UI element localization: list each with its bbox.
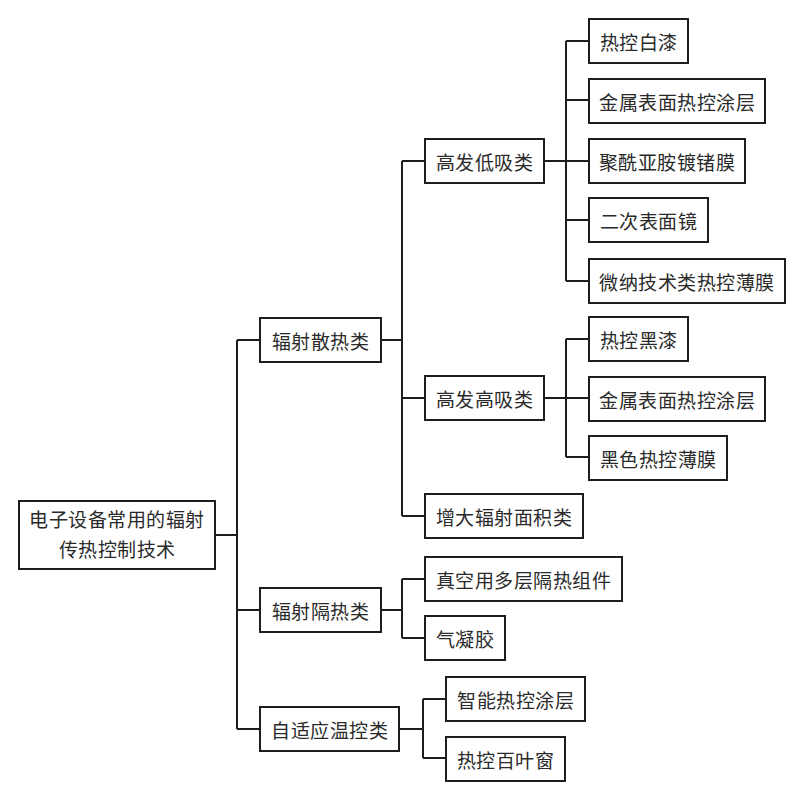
node-label: 高发低吸类 <box>436 148 534 175</box>
node-label: 辐射散热类 <box>272 327 370 354</box>
leaf-polyimide-germanium-film: 聚酰亚胺镀锗膜 <box>588 138 746 184</box>
node-high-emit-high-absorb: 高发高吸类 <box>424 375 545 421</box>
node-label: 热控百叶窗 <box>457 746 555 773</box>
leaf-second-surface-mirror: 二次表面镜 <box>588 197 709 243</box>
node-label: 增大辐射面积类 <box>436 503 573 530</box>
node-label: 智能热控涂层 <box>457 686 574 713</box>
root-node: 电子设备常用的辐射 传热控制技术 <box>18 500 216 570</box>
root-label-line1: 电子设备常用的辐射 <box>29 505 205 535</box>
leaf-thermal-white-paint: 热控白漆 <box>588 18 689 64</box>
node-label: 金属表面热控涂层 <box>599 386 755 413</box>
node-high-emit-low-absorb: 高发低吸类 <box>424 138 545 184</box>
leaf-thermal-black-paint: 热控黑漆 <box>588 316 689 362</box>
leaf-black-thermal-film: 黑色热控薄膜 <box>588 435 728 481</box>
leaf-micro-nano-thermal-film: 微纳技术类热控薄膜 <box>588 258 786 304</box>
radiative-heat-transfer-tree: 电子设备常用的辐射 传热控制技术 辐射散热类 辐射隔热类 自适应温控类 高发低吸… <box>0 0 798 799</box>
node-radiative-insulation: 辐射隔热类 <box>259 587 382 633</box>
leaf-thermal-louver: 热控百叶窗 <box>445 736 566 782</box>
node-label: 热控白漆 <box>600 28 678 55</box>
root-label-line2: 传热控制技术 <box>59 535 176 565</box>
leaf-aerogel: 气凝胶 <box>424 615 506 661</box>
node-increase-radiating-area: 增大辐射面积类 <box>424 493 584 539</box>
node-label: 二次表面镜 <box>600 207 698 234</box>
node-label: 真空用多层隔热组件 <box>436 566 612 593</box>
leaf-smart-thermal-coating: 智能热控涂层 <box>445 676 586 722</box>
node-adaptive-thermal-control: 自适应温控类 <box>259 706 400 752</box>
node-label: 高发高吸类 <box>436 385 534 412</box>
leaf-vacuum-multilayer-insulation: 真空用多层隔热组件 <box>424 556 623 602</box>
node-label: 聚酰亚胺镀锗膜 <box>599 148 736 175</box>
node-label: 辐射隔热类 <box>272 597 370 624</box>
node-label: 金属表面热控涂层 <box>599 88 755 115</box>
node-label: 自适应温控类 <box>271 716 388 743</box>
node-label: 热控黑漆 <box>600 326 678 353</box>
node-label: 气凝胶 <box>436 625 495 652</box>
leaf-metal-surface-coating-2: 金属表面热控涂层 <box>588 376 766 422</box>
leaf-metal-surface-coating: 金属表面热控涂层 <box>588 78 766 124</box>
node-label: 微纳技术类热控薄膜 <box>599 268 775 295</box>
node-label: 黑色热控薄膜 <box>600 445 717 472</box>
node-radiative-dissipation: 辐射散热类 <box>259 317 382 363</box>
